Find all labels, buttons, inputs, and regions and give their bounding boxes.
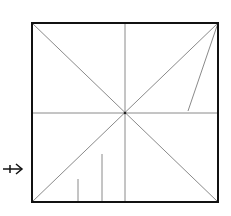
- fold-arrow-icon: [3, 164, 22, 174]
- corner-fold-guide-crease: [188, 23, 218, 111]
- origami-diagram: [0, 0, 231, 216]
- center-point: [124, 112, 127, 115]
